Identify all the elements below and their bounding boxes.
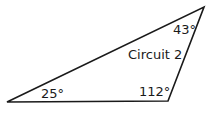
triangle-diagram: 25° 112° 43° Circuit 2 bbox=[0, 0, 209, 115]
angle-label-bottom-right: 112° bbox=[139, 84, 170, 99]
triangle-canvas: 25° 112° 43° Circuit 2 bbox=[0, 0, 209, 115]
angle-label-top-right: 43° bbox=[173, 22, 196, 37]
circuit-title: Circuit 2 bbox=[128, 47, 182, 62]
angle-label-bottom-left: 25° bbox=[41, 86, 64, 101]
